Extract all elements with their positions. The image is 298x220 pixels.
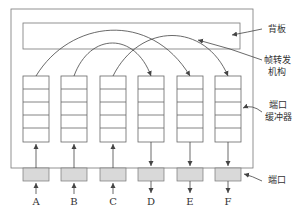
- port-letter-C: C: [105, 196, 121, 207]
- port-letter-B: B: [66, 196, 82, 207]
- port-letter-E: E: [182, 196, 198, 207]
- buffer-C: [100, 76, 126, 142]
- buffer-E: [177, 76, 203, 142]
- backplane-leader: [232, 29, 262, 35]
- port-letter-D: D: [143, 196, 159, 207]
- forwarding-label-line2: 机构: [262, 66, 292, 78]
- backplane-box: [23, 23, 240, 49]
- port-leader: [244, 174, 262, 181]
- path-B-to-D: [74, 43, 151, 76]
- port-letter-F: F: [220, 196, 236, 207]
- forwarding-leader: [198, 40, 262, 60]
- port-D: [138, 168, 164, 181]
- buffer-F: [215, 76, 241, 142]
- path-C-to-F: [113, 36, 228, 77]
- buffer-A: [23, 76, 49, 142]
- port-letter-A: A: [28, 196, 44, 207]
- buffer-label-line1: 端口: [262, 99, 294, 111]
- port-label: 端口: [262, 174, 292, 186]
- buffer-label-line2: 缓冲器: [262, 111, 294, 123]
- port-C: [100, 168, 126, 181]
- backplane-label: 背板: [262, 23, 292, 35]
- port-F: [215, 168, 241, 181]
- buffer-B: [61, 76, 87, 142]
- path-A-to-E: [36, 30, 190, 76]
- port-buffer-label: 端口 缓冲器: [262, 99, 294, 123]
- port-B: [61, 168, 87, 181]
- port-buffers: [23, 76, 241, 142]
- forwarding-mechanism-label: 帧转发 机构: [262, 54, 292, 78]
- switch-diagram: [0, 0, 298, 220]
- buffer-D: [138, 76, 164, 142]
- port-E: [177, 168, 203, 181]
- port-A: [23, 168, 49, 181]
- forwarding-label-line1: 帧转发: [262, 54, 292, 66]
- ports: [23, 168, 241, 181]
- buffer-leader: [243, 107, 262, 112]
- forwarding-paths: [36, 30, 228, 76]
